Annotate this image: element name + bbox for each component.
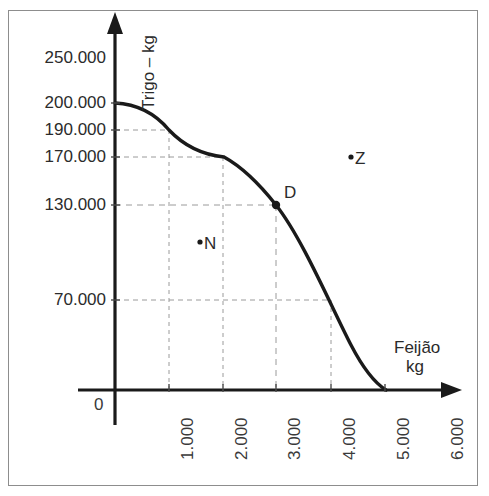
- x-tick-label-3000: 3.000: [285, 417, 305, 460]
- y-axis-arrowhead: [107, 12, 123, 34]
- data-point-z-marker: [348, 154, 353, 159]
- data-point-n-marker: [197, 239, 202, 244]
- y-tick-label-130000: 130.000: [28, 195, 106, 215]
- x-tick-label-6000: 6.000: [448, 417, 468, 460]
- y-axis-title: Trigo – kg: [139, 35, 159, 110]
- vertical-gridlines: [169, 130, 331, 390]
- y-tick-label-70000: 70.000: [28, 290, 106, 310]
- ppf-curve-line: [115, 103, 386, 390]
- x-tick-label-4000: 4.000: [340, 417, 360, 460]
- y-tick-label-190000: 190.000: [28, 120, 106, 140]
- data-point-d-marker: [272, 201, 280, 209]
- origin-label: 0: [94, 395, 103, 415]
- y-tick-label-200000: 200.000: [28, 93, 106, 113]
- data-point-label-z: Z: [355, 149, 365, 169]
- x-tick-label-2000: 2.000: [232, 417, 252, 460]
- x-axis-arrowhead: [441, 382, 462, 398]
- data-point-label-d: D: [284, 183, 296, 203]
- x-tick-label-1000: 1.000: [178, 417, 198, 460]
- x-axis-title-line1: Feijão: [394, 338, 440, 357]
- y-tick-label-170000: 170.000: [28, 147, 106, 167]
- y-tick-label-250000: 250.000: [28, 48, 106, 68]
- ppf-curve: [115, 103, 386, 390]
- data-point-label-n: N: [204, 234, 216, 254]
- x-tick-label-5000: 5.000: [394, 417, 414, 460]
- x-axis-title-line2: kg: [406, 357, 424, 376]
